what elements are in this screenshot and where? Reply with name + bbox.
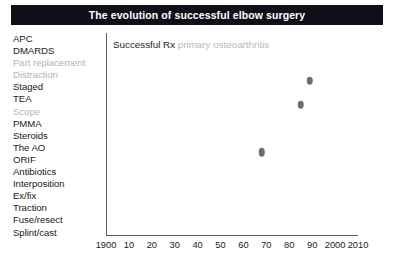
y-axis-category-label: Splint/cast — [13, 227, 105, 239]
series-caption-faint: primary osteoarthritis — [175, 39, 269, 50]
y-axis-category-label: Fuse/resect — [13, 214, 105, 226]
x-axis-tick-label: 80 — [284, 239, 294, 251]
y-axis-label-list: APCDMARDSPart replacementDistractionStag… — [13, 33, 105, 239]
x-axis-tick-label: 70 — [261, 239, 271, 251]
y-axis-category-label: PMMA — [13, 118, 105, 130]
y-axis-category-label: Scope — [13, 106, 105, 118]
slide: The evolution of successful elbow surger… — [0, 0, 393, 270]
page-title: The evolution of successful elbow surger… — [11, 8, 383, 22]
x-axis-tick-label: 40 — [192, 239, 202, 251]
x-axis-tick-labels: 190010203040506070809020002010 — [106, 239, 368, 253]
y-axis-line — [106, 33, 107, 236]
x-axis-tick-label: 1900 — [96, 239, 117, 251]
x-axis-tick-label: 2000 — [325, 239, 346, 251]
x-axis-tick-label: 90 — [307, 239, 317, 251]
x-axis-tick-label: 2010 — [348, 239, 369, 251]
x-axis-tick-label: 50 — [215, 239, 225, 251]
y-axis-category-label: DMARDS — [13, 45, 105, 57]
x-axis-tick-label: 20 — [147, 239, 157, 251]
y-axis-category-label: Interposition — [13, 178, 105, 190]
y-axis-category-label: Staged — [13, 81, 105, 93]
data-point — [297, 100, 304, 109]
y-axis-category-label: Traction — [13, 202, 105, 214]
x-axis-tick-label: 60 — [238, 239, 248, 251]
data-point — [259, 148, 266, 157]
y-axis-category-label: Part replacement — [13, 57, 105, 69]
y-axis-category-label: The AO — [13, 142, 105, 154]
plot-area — [106, 33, 358, 236]
title-banner: The evolution of successful elbow surger… — [11, 5, 383, 25]
series-caption: Successful Rx primary osteoarthritis — [113, 38, 269, 51]
y-axis-category-label: Antibiotics — [13, 166, 105, 178]
data-point — [307, 77, 314, 86]
y-axis-category-label: Steroids — [13, 130, 105, 142]
y-axis-category-label: Distraction — [13, 69, 105, 81]
x-axis-tick-label: 10 — [124, 239, 134, 251]
y-axis-category-label: TEA — [13, 93, 105, 105]
x-axis-line — [106, 235, 358, 236]
y-axis-category-label: Ex/fix — [13, 190, 105, 202]
y-axis-category-label: APC — [13, 33, 105, 45]
x-axis-tick-label: 30 — [170, 239, 180, 251]
y-axis-category-label: ORIF — [13, 154, 105, 166]
series-caption-strong: Successful Rx — [113, 39, 175, 50]
